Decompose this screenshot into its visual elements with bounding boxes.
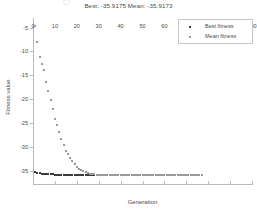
x-tick-label: 40: [117, 23, 123, 29]
x-tick-mark: [143, 181, 144, 185]
x-tick-mark: [55, 181, 56, 185]
chart-title: Best: -35.9175 Mean: -35.9173: [0, 2, 257, 9]
y-tick-label: -20: [20, 96, 28, 102]
x-tick-mark: [208, 181, 209, 185]
x-tick-mark: [121, 181, 122, 185]
x-tick-mark: [33, 181, 34, 185]
mean-fitness-point: [65, 150, 67, 152]
legend-item[interactable]: Best fitness: [179, 22, 252, 32]
y-tick-mark: [30, 123, 34, 124]
x-axis-title: Generation: [33, 199, 252, 205]
legend-label: Mean fitness: [205, 33, 236, 39]
y-tick-mark: [30, 99, 34, 100]
mean-fitness-point: [71, 160, 73, 162]
mean-fitness-point: [39, 56, 41, 58]
mean-fitness-point: [58, 131, 60, 133]
mean-fitness-point: [201, 174, 203, 176]
x-tick-label: 60: [161, 23, 167, 29]
y-tick-label: -35: [20, 168, 28, 174]
x-tick-label: 10: [52, 23, 58, 29]
fitness-plot-figure: Best: -35.9175 Mean: -35.9173 -5-10-15-2…: [0, 0, 257, 217]
mean-fitness-point: [50, 99, 52, 101]
mean-fitness-point: [43, 69, 45, 71]
x-tick-mark: [77, 181, 78, 185]
x-tick-label: 30: [96, 23, 102, 29]
y-tick-label: -10: [20, 48, 28, 54]
mean-fitness-point: [45, 81, 47, 83]
mean-fitness-point: [54, 118, 56, 120]
mean-fitness-point: [36, 41, 38, 43]
x-tick-label: 50: [139, 23, 145, 29]
y-axis-line: [33, 18, 34, 185]
x-tick-mark: [164, 181, 165, 185]
y-axis-title: Fitness value: [5, 65, 11, 129]
mean-fitness-point: [63, 144, 65, 146]
y-tick-label: -30: [20, 144, 28, 150]
y-tick-label: -15: [20, 72, 28, 78]
legend-marker-icon: [189, 26, 191, 28]
mean-fitness-point: [56, 124, 58, 126]
x-tick-label: 20: [74, 23, 80, 29]
y-tick-label: -5: [23, 25, 28, 31]
x-tick-mark: [99, 181, 100, 185]
legend-label: Best fitness: [205, 23, 233, 29]
mean-fitness-point: [41, 63, 43, 65]
mean-fitness-point: [69, 157, 71, 159]
mean-fitness-point: [67, 153, 69, 155]
y-tick-label: -25: [20, 120, 28, 126]
x-tick-mark: [230, 181, 231, 185]
legend: Best fitnessMean fitness: [178, 19, 253, 44]
mean-fitness-point: [60, 138, 62, 140]
mean-fitness-point: [74, 163, 76, 165]
y-tick-mark: [30, 75, 34, 76]
legend-marker-icon: [189, 36, 191, 38]
mean-fitness-point: [47, 90, 49, 92]
x-tick-mark: [186, 181, 187, 185]
legend-item[interactable]: Mean fitness: [179, 32, 252, 42]
y-tick-mark: [30, 51, 34, 52]
mean-fitness-point: [52, 108, 54, 110]
mean-fitness-point: [34, 25, 36, 27]
y-tick-mark: [30, 147, 34, 148]
x-tick-mark: [252, 181, 253, 185]
